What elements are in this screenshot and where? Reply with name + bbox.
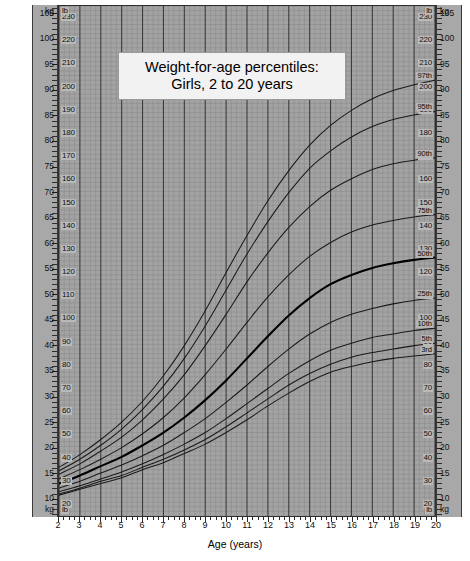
kg-tick [437,223,442,224]
kg-tick [437,437,442,438]
kg-tick-label: 45 [45,315,54,323]
kg-tick [437,478,442,479]
kg-tick [437,483,442,484]
kg-tick [52,253,57,254]
kg-tick [52,49,57,50]
kg-tick [52,23,57,24]
kg-tick [52,161,57,162]
kg-tick-label: 10 [440,494,449,502]
kg-tick [437,488,442,489]
kg-tick-label: 50 [440,290,449,298]
kg-tick [437,172,442,173]
lb-tick-label: 50 [61,430,72,438]
kg-tick [437,136,442,137]
kg-tick [437,356,442,357]
kg-tick [52,44,57,45]
kg-tick-label: 30 [45,392,54,400]
growth-chart-page: 1015202530354045505560657075808590951001… [0,0,470,561]
x-tick-label: 11 [242,520,251,530]
kg-tick [52,121,57,122]
lb-tick-label: 90 [61,338,72,346]
lb-tick-label: 160 [418,175,433,183]
x-tick-label: 7 [160,520,165,530]
kg-tick [437,453,442,454]
kg-tick [437,121,442,122]
kg-unit-label: kg [440,505,449,513]
kg-tick [52,325,57,326]
kg-tick [437,182,442,183]
kg-tick [437,305,442,306]
kg-axis-right: 1015202530354045505560657075808590951001… [436,5,462,517]
kg-tick [52,351,57,352]
kg-tick-label: 70 [440,188,449,196]
kg-tick [437,279,442,280]
lb-tick-label: 80 [423,361,434,369]
kg-axis-left: 1015202530354045505560657075808590951001… [32,5,58,517]
x-tick-label: 4 [97,520,102,530]
x-tick-label: 5 [118,520,123,530]
kg-tick [52,366,57,367]
kg-tick [437,187,442,188]
kg-tick [52,156,57,157]
kg-tick [52,202,57,203]
kg-tick [52,233,57,234]
kg-tick [437,151,442,152]
kg-tick [52,151,57,152]
kg-tick [437,494,442,495]
kg-tick [52,289,57,290]
lb-tick-label: 30 [423,477,434,485]
kg-unit-label: kg [45,7,54,15]
kg-tick [52,279,57,280]
kg-tick [437,29,442,30]
kg-tick-label: 55 [440,264,449,272]
kg-tick [52,182,57,183]
lb-tick-label: 130 [61,245,76,253]
kg-tick [52,437,57,438]
kg-tick [52,514,57,515]
kg-tick [437,248,442,249]
kg-tick-label: 15 [440,469,449,477]
kg-tick-label: 25 [440,418,449,426]
kg-tick-label: 10 [45,494,54,502]
kg-tick-label: 90 [45,85,54,93]
kg-tick [52,402,57,403]
lb-unit-label: lb [61,506,69,514]
kg-tick [52,458,57,459]
kg-tick [437,274,442,275]
kg-tick [437,432,442,433]
kg-tick [52,407,57,408]
x-tick-label: 8 [181,520,186,530]
kg-tick [437,44,442,45]
kg-tick [52,34,57,35]
kg-tick [52,85,57,86]
kg-tick-label: 45 [440,315,449,323]
kg-tick-label: 50 [45,290,54,298]
kg-tick [52,391,57,392]
kg-tick [437,310,442,311]
kg-tick [52,131,57,132]
kg-tick-label: 55 [45,264,54,272]
kg-tick [437,376,442,377]
lb-tick-label: 60 [423,407,434,415]
kg-tick-label: 40 [45,341,54,349]
kg-tick [437,233,442,234]
kg-tick [52,335,57,336]
kg-tick [437,80,442,81]
kg-tick [437,228,442,229]
kg-tick [437,207,442,208]
kg-tick [52,315,57,316]
x-tick-label: 19 [410,520,420,530]
kg-tick [437,325,442,326]
x-tick-label: 12 [263,520,273,530]
kg-tick [437,75,442,76]
kg-tick [52,223,57,224]
lb-tick-label: 190 [61,106,76,114]
kg-tick [52,105,57,106]
kg-tick-label: 20 [45,443,54,451]
x-tick-label: 2 [55,520,60,530]
kg-tick-label: 35 [45,366,54,374]
kg-tick [437,458,442,459]
kg-tick [437,131,442,132]
kg-tick [52,95,57,96]
lb-tick-label: 170 [61,152,76,160]
